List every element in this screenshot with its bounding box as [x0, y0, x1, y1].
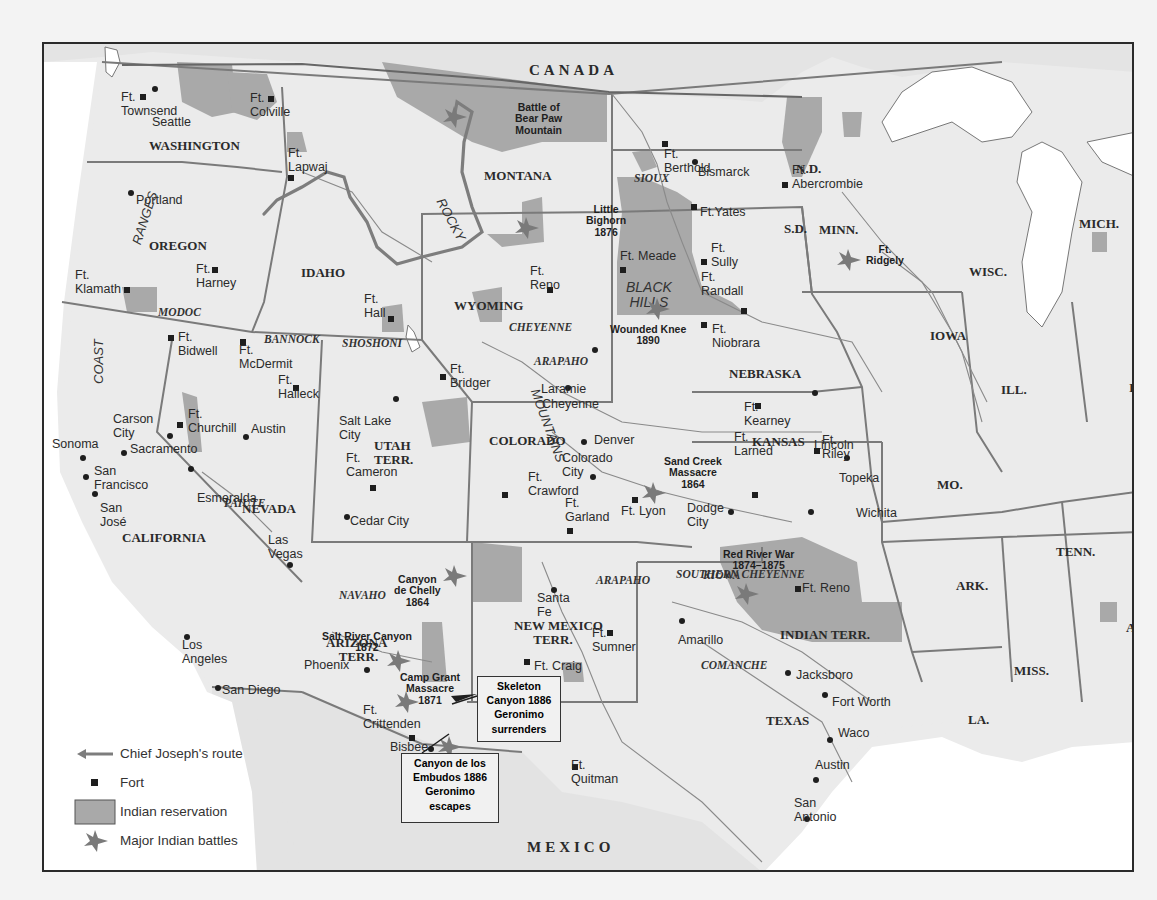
tribe-label-arapaho1: ARAPAHO: [534, 355, 588, 367]
fort-square-icon: [288, 175, 294, 181]
battle-label: Little Bighorn 1876: [586, 204, 626, 238]
battle-star-icon: [70, 829, 120, 853]
city-dot-icon: [812, 390, 818, 396]
fort-label: Ft. McDermit: [239, 344, 292, 371]
fort-label: Ft. Meade: [620, 250, 676, 264]
city-dot-icon: [822, 692, 828, 698]
fort-label: Ft. Garland: [565, 497, 609, 524]
state-label-minn: MINN.: [819, 223, 858, 237]
city-dot-icon: [83, 474, 89, 480]
battle-star-icon: [834, 247, 862, 273]
state-label-ark: ARK.: [956, 579, 988, 593]
state-label-la: LA.: [968, 713, 989, 727]
tribe-label-arapaho2: ARAPAHO: [596, 574, 650, 586]
state-label-indianterr: INDIAN TERR.: [780, 628, 870, 642]
city-label: Jacksboro: [796, 669, 853, 683]
fort-label: Ft. Niobrara: [712, 323, 760, 350]
tribe-label-modoc: MODOC: [158, 306, 201, 318]
city-label: Phoenix: [304, 659, 349, 673]
city-dot-icon: [167, 433, 173, 439]
state-label-nebraska: NEBRASKA: [729, 367, 801, 381]
city-label: Denver: [594, 434, 634, 448]
battle-star-icon: [440, 563, 468, 589]
battle-label: Wounded Knee 1890: [610, 324, 686, 347]
city-dot-icon: [827, 737, 833, 743]
city-label: Austin: [815, 759, 850, 773]
callout-text: Skeleton Canyon 1886 Geronimo surrenders: [487, 680, 552, 735]
legend-label: Fort: [120, 775, 144, 790]
fort-label: Ft. Quitman: [571, 759, 618, 786]
battle-star-icon: [512, 215, 540, 241]
reservation-swatch-icon: [70, 799, 120, 825]
fort-square-icon: [620, 267, 626, 273]
legend-label: Major Indian battles: [120, 833, 238, 848]
fort-square-icon: [168, 335, 174, 341]
city-dot-icon: [188, 466, 194, 472]
city-label: Las Vegas: [268, 534, 303, 561]
state-label-idaho: IDAHO: [301, 266, 345, 280]
fort-square-icon: [691, 204, 697, 210]
country-label-canada: CANADA: [529, 62, 618, 78]
city-label: Topeka: [839, 472, 879, 486]
map-legend: Chief Joseph's route Fort Indian reserva…: [70, 739, 290, 855]
city-label: Fort Worth: [832, 696, 891, 710]
battle-star-icon: [643, 296, 671, 322]
city-label: San José: [100, 502, 126, 529]
state-label-mich: MICH.: [1079, 217, 1119, 231]
city-label: Amarillo: [678, 634, 723, 648]
state-label-sd: S.D.: [784, 222, 807, 236]
fort-label: Ft. Bidwell: [178, 331, 218, 358]
callout-skeleton-canyon: Skeleton Canyon 1886 Geronimo surrenders: [477, 676, 561, 742]
fort-label: Ft. Randall: [701, 271, 743, 298]
fort-label: Ft. Colville: [250, 92, 290, 119]
state-label-oregon: OREGON: [149, 239, 207, 253]
state-label-ind: IND.: [1129, 381, 1134, 395]
battle-label: Ft. Ridgely: [866, 244, 904, 267]
fort-square-icon: [388, 316, 394, 322]
fort-label: Ft. Townsend: [121, 91, 177, 118]
legend-fort: Fort: [70, 768, 290, 797]
battle-star-icon: [639, 480, 667, 506]
fort-label: Ft. Bridger: [450, 363, 490, 390]
fort-label: Ft.Yates: [700, 206, 746, 220]
fort-label: Ft. Crawford: [528, 471, 579, 498]
battle-label: Red River War 1874–1875: [723, 549, 794, 572]
fort-square-icon: [409, 735, 415, 741]
city-label: Cedar City: [350, 515, 409, 529]
fort-label: Ft. Berthold: [664, 148, 711, 175]
fort-square-icon: [524, 659, 530, 665]
fort-label: Ft. Lyon: [621, 505, 666, 519]
country-label-mexico: MEXICO: [527, 839, 614, 855]
fort-label: Ft. Abercrombie: [792, 164, 863, 191]
state-label-washington: WASHINGTON: [149, 139, 240, 153]
state-label-ill: ILL.: [1001, 383, 1027, 397]
battle-label: Salt River Canyon 1872: [322, 631, 412, 654]
fort-label: Ft. Craig: [534, 660, 582, 674]
state-label-wyoming: WYOMING: [454, 299, 523, 313]
fort-label: Ft. Kearney: [744, 401, 791, 428]
city-label: Laramie: [541, 383, 586, 397]
fort-square-icon: [782, 182, 788, 188]
city-dot-icon: [287, 562, 293, 568]
fort-label: Ft. Hall: [364, 293, 386, 320]
battle-label: Camp Grant Massacre 1871: [400, 672, 460, 706]
battle-star-icon: [440, 104, 468, 130]
fort-label: Ft. Reno: [530, 265, 560, 292]
state-label-wisc: WISC.: [969, 265, 1007, 279]
city-dot-icon: [785, 670, 791, 676]
state-label-texas: TEXAS: [766, 714, 809, 728]
battle-star-icon: [732, 581, 760, 607]
state-label-tenn: TENN.: [1056, 545, 1095, 559]
state-label-california: CALIFORNIA: [122, 531, 206, 545]
fort-square-icon: [701, 322, 707, 328]
city-label: Sacramento: [130, 443, 197, 457]
range-label-coast: COAST: [92, 339, 106, 384]
city-label: Dodge City: [687, 502, 724, 529]
fort-label: Ft. Harney: [196, 263, 236, 290]
city-dot-icon: [728, 509, 734, 515]
city-dot-icon: [393, 396, 399, 402]
fort-label: Ft. Lapwaj: [288, 147, 328, 174]
fort-label: Ft. Klamath: [75, 269, 121, 296]
fort-label: Ft. Sumner: [592, 627, 636, 654]
fort-square-icon: [701, 259, 707, 265]
